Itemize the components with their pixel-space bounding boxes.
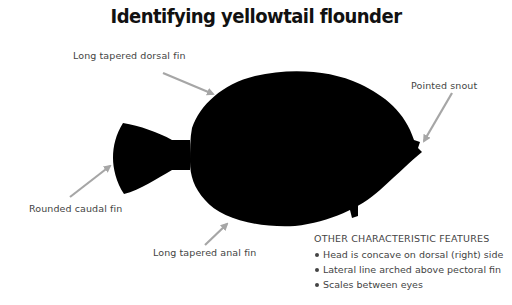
pectoral-fin-shape (349, 196, 358, 218)
features-heading: OTHER CHARACTERISTIC FEATURES (314, 233, 503, 244)
flounder-silhouette (113, 71, 422, 226)
anal-fin-arrow (205, 224, 227, 245)
label-caudal-fin: Rounded caudal fin (29, 203, 122, 214)
snout-arrow (424, 93, 452, 141)
bullet-icon (315, 283, 319, 287)
label-dorsal-fin: Long tapered dorsal fin (73, 50, 186, 61)
features-list: Head is concave on dorsal (right) side L… (314, 247, 503, 292)
dorsal-fin-arrow (163, 73, 213, 94)
feature-item: Scales between eyes (314, 277, 503, 292)
bullet-icon (315, 253, 319, 257)
features-list-block: OTHER CHARACTERISTIC FEATURES Head is co… (314, 233, 503, 292)
label-anal-fin: Long tapered anal fin (153, 247, 256, 258)
bullet-icon (315, 268, 319, 272)
label-snout: Pointed snout (411, 80, 477, 91)
feature-item: Lateral line arched above pectoral fin (314, 262, 503, 277)
caudal-fin-arrow (70, 166, 110, 197)
body-shape (190, 71, 422, 226)
feature-item: Head is concave on dorsal (right) side (314, 247, 503, 262)
caudal-fin-shape (113, 123, 190, 194)
